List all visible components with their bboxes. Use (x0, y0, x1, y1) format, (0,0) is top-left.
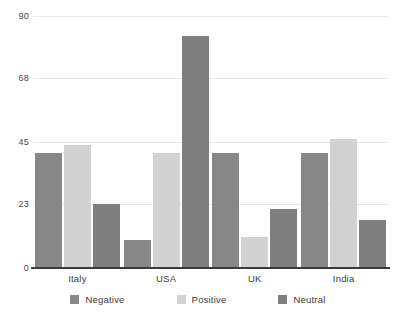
y-axis-tick-label: 0 (3, 264, 29, 273)
legend-label: Neutral (293, 294, 325, 305)
y-axis-tick-label: 90 (3, 12, 29, 21)
x-axis-baseline (31, 267, 390, 269)
plot-area (33, 16, 388, 268)
bar-india-negative[interactable] (301, 153, 328, 268)
y-axis: 023456890 (0, 0, 29, 320)
bar-usa-neutral[interactable] (182, 36, 209, 268)
y-axis-tick-label: 68 (3, 74, 29, 83)
bar-india-neutral[interactable] (359, 220, 386, 268)
bar-italy-negative[interactable] (35, 153, 62, 268)
chart-legend: NegativePositiveNeutral (0, 294, 396, 305)
y-axis-tick-label: 45 (3, 138, 29, 147)
legend-item-neutral[interactable]: Neutral (278, 294, 325, 305)
legend-swatch-icon (177, 295, 186, 304)
bar-italy-positive[interactable] (64, 145, 91, 268)
bar-usa-negative[interactable] (124, 240, 151, 268)
x-axis-category-label: UK (211, 273, 300, 284)
y-axis-tick-label: 23 (3, 200, 29, 209)
legend-item-positive[interactable]: Positive (177, 294, 227, 305)
bar-uk-neutral[interactable] (270, 209, 297, 268)
legend-item-negative[interactable]: Negative (70, 294, 124, 305)
x-axis-category-label: USA (122, 273, 211, 284)
bar-group (299, 16, 388, 268)
bar-usa-positive[interactable] (153, 153, 180, 268)
bar-group (211, 16, 300, 268)
x-axis-category-label: Italy (33, 273, 122, 284)
bar-group (122, 16, 211, 268)
bar-group (33, 16, 122, 268)
legend-label: Positive (192, 294, 227, 305)
legend-label: Negative (85, 294, 124, 305)
legend-swatch-icon (278, 295, 287, 304)
bar-chart: 023456890 NegativePositiveNeutral ItalyU… (0, 0, 396, 320)
legend-swatch-icon (70, 295, 79, 304)
bar-uk-positive[interactable] (241, 237, 268, 268)
bar-india-positive[interactable] (330, 139, 357, 268)
bar-italy-neutral[interactable] (93, 204, 120, 268)
x-axis-category-label: India (299, 273, 388, 284)
bar-uk-negative[interactable] (212, 153, 239, 268)
